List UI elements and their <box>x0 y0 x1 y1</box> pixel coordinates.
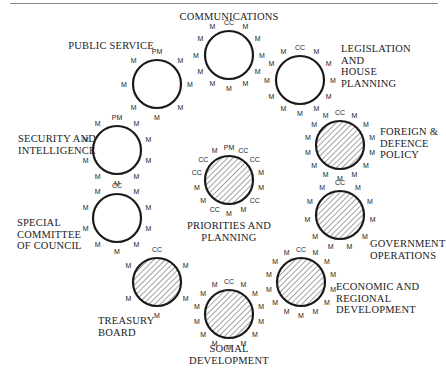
member-role-m: M <box>177 57 183 64</box>
member-role-m: M <box>312 308 318 315</box>
member-role-m: M <box>95 173 101 180</box>
committee-name: ECONOMIC ANDREGIONALDEVELOPMENT <box>336 281 419 315</box>
committee-circle <box>316 191 364 239</box>
member-role-m: M <box>183 295 189 302</box>
member-role-m: M <box>272 258 278 265</box>
committee-circle <box>93 194 141 242</box>
committee-name-line: POLICY <box>380 149 419 160</box>
member-role-m: M <box>330 77 336 84</box>
committee-treasury-board: CCMMMMMTREASURYBOARD <box>98 246 189 338</box>
member-role-m: M <box>266 271 272 278</box>
member-role-m: M <box>114 248 120 255</box>
member-role-m: M <box>367 198 373 205</box>
member-role-m: M <box>297 110 303 117</box>
member-role-m: M <box>131 104 137 111</box>
member-role-m: M <box>194 184 200 191</box>
member-role-m: M <box>193 52 199 59</box>
member-role-cc: CC <box>335 179 345 186</box>
committee-name-line: SOCIAL <box>209 343 248 354</box>
committee-name-line: BOARD <box>98 327 136 338</box>
member-role-m: M <box>284 308 290 315</box>
committee-name-line: PLANNING <box>341 78 396 89</box>
member-role-m: M <box>95 120 101 127</box>
member-role-m: M <box>324 299 330 306</box>
member-role-m: M <box>133 188 139 195</box>
member-role-m: M <box>197 68 203 75</box>
committee-name-line: COMMUNICATIONS <box>179 11 278 22</box>
member-role-m: M <box>133 173 139 180</box>
committee-name-line: ECONOMIC AND <box>336 281 419 292</box>
member-role-m: M <box>121 81 127 88</box>
committee-name: SECURITY ANDINTELLIGENCE <box>18 133 96 156</box>
committee-name-line: COMMITTEE <box>17 229 81 240</box>
committee-name: COMMUNICATIONS <box>179 11 278 22</box>
committee-special-committee-of-council: CCMMMMMMMMMSPECIALCOMMITTEEOF COUNCIL <box>17 182 151 255</box>
member-role-m: M <box>187 81 193 88</box>
member-role-m: M <box>314 105 320 112</box>
member-role-m: M <box>200 331 206 338</box>
committee-name-line: PLANNING <box>201 232 256 243</box>
committee-name-line: DEFENCE <box>380 138 429 149</box>
committee-circle <box>133 258 181 306</box>
member-role-cc: CC <box>296 246 306 253</box>
committee-circle <box>205 156 253 204</box>
committee-name-line: HOUSE <box>341 66 377 77</box>
member-role-m: M <box>226 85 232 92</box>
member-role-cc: CC <box>224 278 234 285</box>
committee-name: SPECIALCOMMITTEEOF COUNCIL <box>17 217 82 251</box>
committee-circle <box>277 258 325 306</box>
member-role-m: M <box>145 225 151 232</box>
member-role-m: M <box>264 77 270 84</box>
member-role-m: M <box>258 169 264 176</box>
member-role-m: M <box>145 204 151 211</box>
committee-circle <box>205 290 253 338</box>
member-role-m: M <box>305 149 311 156</box>
member-role-m: M <box>281 48 287 55</box>
member-role-m: M <box>355 184 361 191</box>
committee-name-line: GOVERNMENT <box>370 238 446 249</box>
member-role-cc: CC <box>152 246 162 253</box>
member-role-m: M <box>298 312 304 319</box>
member-role-m: M <box>304 216 310 223</box>
member-role-m: M <box>370 216 376 223</box>
member-role-cc: CC <box>250 156 260 163</box>
member-role-m: M <box>312 249 318 256</box>
committee-government-operations: CCMMMMMMMMMMGOVERNMENTOPERATIONS <box>304 179 446 261</box>
member-role-m: M <box>281 105 287 112</box>
member-role-m: M <box>133 241 139 248</box>
member-role-m: M <box>125 295 131 302</box>
committee-circle <box>93 126 141 174</box>
committee-name: SOCIALDEVELOPMENT <box>189 343 269 366</box>
committee-name-line: LEGISLATION <box>341 43 411 54</box>
member-role-m: M <box>363 162 369 169</box>
member-role-m: M <box>307 198 313 205</box>
committee-name-line: SPECIAL <box>17 217 61 228</box>
member-role-m: M <box>346 243 352 250</box>
committee-security-and-intelligence: PMMMMMMMMMMSECURITY ANDINTELLIGENCE <box>18 114 151 187</box>
member-role-m: M <box>212 281 218 288</box>
member-role-m: M <box>266 286 272 293</box>
committee-circle <box>133 60 181 108</box>
member-role-m: M <box>369 149 375 156</box>
member-role-m: M <box>268 60 274 67</box>
member-role-m: M <box>183 262 189 269</box>
committee-name: LEGISLATIONANDHOUSEPLANNING <box>341 43 411 89</box>
committee-name: FOREIGN &DEFENCEPOLICY <box>380 126 438 160</box>
member-role-pm: PM <box>112 114 123 121</box>
member-role-m: M <box>145 136 151 143</box>
committee-name-line: OPERATIONS <box>370 250 436 261</box>
member-role-m: M <box>284 249 290 256</box>
member-role-m: M <box>226 210 232 217</box>
committee-name-line: FOREIGN & <box>380 126 438 137</box>
member-role-m: M <box>252 290 258 297</box>
member-role-m: M <box>133 120 139 127</box>
member-role-m: M <box>311 162 317 169</box>
member-role-m: M <box>114 180 120 187</box>
member-role-m: M <box>83 157 89 164</box>
committee-name-line: INTELLIGENCE <box>18 145 96 156</box>
member-role-m: M <box>319 184 325 191</box>
committee-name: PRIORITIES ANDPLANNING <box>187 220 271 243</box>
member-role-m: M <box>311 121 317 128</box>
member-role-m: M <box>369 134 375 141</box>
member-role-m: M <box>330 271 336 278</box>
